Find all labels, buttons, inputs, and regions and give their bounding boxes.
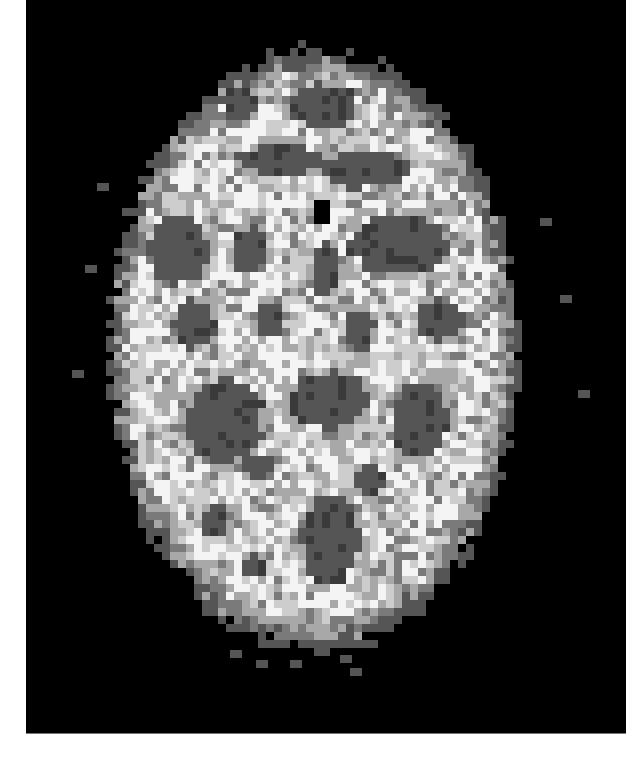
scan-frame [26,0,626,734]
brain-scan-image [26,0,626,733]
